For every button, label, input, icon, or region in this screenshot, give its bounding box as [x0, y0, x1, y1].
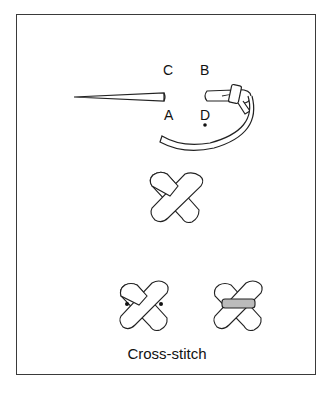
label-a: A [164, 107, 173, 123]
stitch-dot-left [125, 302, 129, 306]
label-c: C [163, 62, 173, 78]
cross-stitch-icon [150, 172, 203, 222]
cross-stitch-bar-icon [214, 281, 262, 331]
figure-caption: Cross-stitch [0, 345, 334, 362]
needle-icon [74, 93, 165, 101]
stitch-dot-right [159, 302, 163, 306]
point-d-dot [203, 123, 207, 127]
label-b: B [200, 62, 209, 78]
cross-stitch-illustration [0, 0, 334, 399]
label-d: D [200, 107, 210, 123]
